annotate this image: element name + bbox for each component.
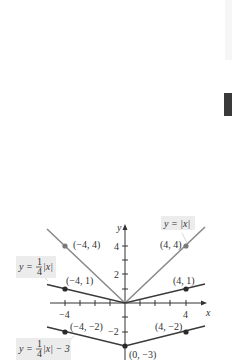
point-neg4-4: [62, 243, 67, 248]
svg-text:|x|: |x|: [43, 261, 53, 272]
point-4-1: [183, 286, 188, 291]
y-tick-label-neg2: −2: [108, 326, 119, 337]
point-neg4-1: [62, 286, 67, 291]
svg-text:4: 4: [37, 348, 42, 359]
point-label-neg4-neg2: (−4, −2): [70, 321, 103, 333]
point-label-neg4-1: (−4, 1): [66, 275, 93, 287]
point-label-0-neg3: (0, −3): [129, 349, 156, 360]
point-label-neg4-4: (−4, 4): [73, 239, 100, 251]
svg-text:4: 4: [37, 266, 42, 277]
svg-text:y =: y =: [18, 343, 33, 354]
absolute-value-graph: y x −4 4 4 2 −2 (−4, 4) (4, 4) (−4, 1) (…: [0, 0, 232, 360]
y-tick-label-4: 4: [114, 241, 119, 252]
x-tick-label-4: 4: [183, 309, 188, 320]
point-neg4-neg2: [62, 329, 67, 334]
y-axis: [122, 224, 128, 360]
point-4-4: [183, 243, 188, 248]
y-tick-label-2: 2: [114, 269, 119, 280]
point-0-neg3: [122, 343, 127, 348]
point-label-4-neg2: (4, −2): [155, 321, 182, 333]
svg-text:y =: y =: [18, 261, 33, 272]
svg-text:|x| − 3: |x| − 3: [43, 343, 70, 354]
x-axis-arrow-icon: [201, 301, 207, 306]
point-label-4-1: (4, 1): [173, 275, 195, 287]
svg-text:y = |x|: y = |x|: [163, 218, 190, 229]
y-axis-label: y: [116, 222, 122, 233]
point-4-neg2: [183, 329, 188, 334]
equation-callout-quarter-abs-x: y = 1 4 |x|: [16, 256, 56, 281]
x-axis: [50, 300, 207, 306]
point-label-4-4: (4, 4): [160, 239, 182, 251]
y-axis-arrow-icon: [123, 224, 128, 230]
series-quarter-abs-x: [47, 284, 205, 303]
equation-callout-quarter-abs-x-minus-3: y = 1 4 |x| − 3: [16, 336, 74, 360]
x-axis-label: x: [205, 307, 211, 318]
x-tick-label-neg4: −4: [59, 309, 70, 320]
